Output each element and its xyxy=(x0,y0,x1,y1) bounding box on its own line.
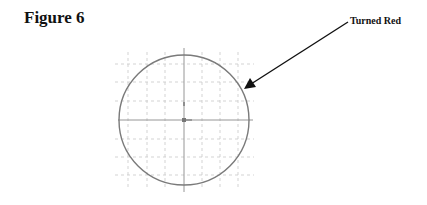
sketch-canvas xyxy=(0,0,427,205)
arrow-icon xyxy=(244,22,348,89)
origin-marker xyxy=(182,102,192,122)
